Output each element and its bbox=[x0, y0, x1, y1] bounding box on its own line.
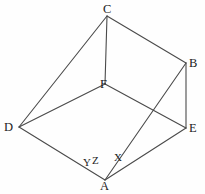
angle-label-z: Z bbox=[92, 155, 99, 166]
vertex-label-b: B bbox=[189, 57, 197, 70]
vertex-label-e: E bbox=[189, 122, 197, 135]
edge-cf bbox=[105, 16, 107, 84]
edge-group bbox=[19, 16, 186, 180]
vertex-label-a: A bbox=[100, 180, 109, 193]
angle-label-y: Y bbox=[83, 157, 91, 168]
edge-fd bbox=[19, 84, 105, 127]
figure-canvas bbox=[0, 0, 205, 194]
vertex-label-f: F bbox=[100, 78, 107, 91]
edge-cd bbox=[19, 16, 107, 127]
angle-label-x: X bbox=[114, 152, 122, 163]
vertex-label-c: C bbox=[103, 3, 111, 16]
edge-cb bbox=[107, 16, 186, 63]
vertex-label-d: D bbox=[4, 121, 13, 134]
geometry-figure: ABCDEFXYZ bbox=[0, 0, 205, 194]
